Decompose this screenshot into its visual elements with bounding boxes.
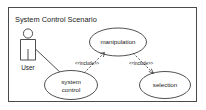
system-boundary-title: System Control Scenario [15, 15, 97, 24]
use-case-manipulation[interactable]: manipulation [90, 28, 147, 56]
use-case-selection[interactable]: selection [140, 72, 191, 99]
use-case-selection-label: selection [153, 81, 178, 88]
use-case-manipulation-label: manipulation [100, 38, 136, 45]
include-stereotype-label-right: <<include>> [129, 61, 154, 66]
use-case-system-control[interactable]: system control [45, 71, 98, 100]
use-case-diagram: System Control Scenario User system cont… [0, 0, 206, 110]
diagram-canvas: System Control Scenario User system cont… [0, 0, 206, 110]
use-case-system-control-label-line2: control [62, 86, 81, 93]
include-stereotype-label-left: <<include>> [75, 61, 100, 66]
use-case-system-control-label-line1: system [61, 78, 81, 85]
actor-user-label: User [21, 64, 35, 71]
